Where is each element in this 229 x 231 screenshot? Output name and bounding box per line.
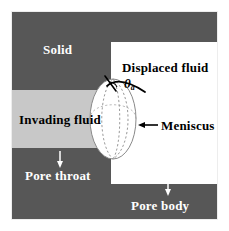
meniscus-meridian-center: [113, 79, 120, 159]
contact-angle-subscript: a: [131, 83, 135, 92]
label-pore-throat: Pore throat: [25, 169, 91, 182]
region-solid-top-strip: [111, 12, 217, 42]
meniscus-arrow-head: [138, 122, 145, 128]
label-pore-body: Pore body: [131, 199, 189, 212]
pore-displacement-diagram: Solid Displaced fluid Invading fluid Men…: [0, 0, 229, 231]
label-solid: Solid: [43, 43, 72, 56]
region-solid-bottom-left: [12, 148, 111, 219]
label-meniscus: Meniscus: [161, 119, 215, 132]
diagram-canvas: Solid Displaced fluid Invading fluid Men…: [12, 12, 217, 219]
label-invading-fluid: Invading fluid: [19, 113, 101, 126]
contact-angle-theta-glyph: θ: [124, 76, 131, 91]
label-displaced-fluid: Displaced fluid: [122, 61, 208, 74]
meniscus-meridian-right: [113, 79, 128, 159]
contact-angle-arc: [110, 82, 117, 87]
label-contact-angle: θa: [124, 77, 135, 90]
